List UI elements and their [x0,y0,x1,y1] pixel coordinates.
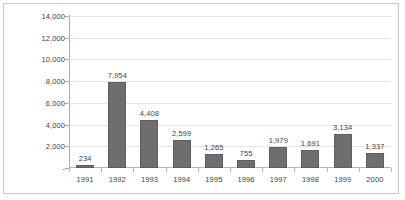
x-axis-labels: 1991199219931994199519961997199819992000 [69,168,391,192]
x-axis-tick-label: 1997 [270,175,287,184]
bar-group: 7,954 [101,16,133,168]
x-axis-tick-label: 2000 [366,175,383,184]
bar-value-label: 3,134 [333,123,352,132]
x-axis-tick [69,168,70,172]
bar [366,153,384,168]
plot-area: 2347,9544,4082,5991,2657551,9791,6913,13… [69,16,391,168]
bar-value-label: 1,265 [204,143,223,152]
bar-value-label: 1,979 [269,136,288,145]
bar-group: 2,599 [166,16,198,168]
bar [301,150,319,168]
y-axis-labels: -2,0004,0006,0008,00010,00012,00014,000 [4,16,65,168]
x-axis-tick [101,168,102,172]
bar-group: 1,979 [262,16,294,168]
bar-group: 1,265 [198,16,230,168]
bar-group: 3,134 [327,16,359,168]
x-axis-tick-label: 1998 [302,175,319,184]
bar [140,120,158,168]
x-axis-tick-label: 1993 [141,175,158,184]
x-axis-tick-label: 1994 [173,175,190,184]
y-axis-tick-label: - [7,164,65,173]
bar [269,147,287,168]
bar-group: 1,337 [359,16,391,168]
bar-value-label: 1,691 [301,139,320,148]
bar [108,82,126,168]
bar [173,140,191,168]
chart-container: -2,0004,0006,0008,00010,00012,00014,000 … [3,3,399,194]
bar-value-label: 755 [240,149,253,158]
bar-value-label: 234 [79,154,92,163]
bar [237,160,255,168]
x-axis-tick [359,168,360,172]
bar-group: 4,408 [133,16,165,168]
x-axis-tick-label: 1991 [77,175,94,184]
x-axis-tick [262,168,263,172]
y-axis-tick-label: 10,000 [7,55,65,64]
bar-group: 1,691 [294,16,326,168]
bar-group: 755 [230,16,262,168]
x-axis-tick [198,168,199,172]
x-axis-tick [294,168,295,172]
x-axis-tick-label: 1995 [205,175,222,184]
bar-group: 234 [69,16,101,168]
x-axis-tick [230,168,231,172]
bar [205,154,223,168]
bar-value-label: 7,954 [108,71,127,80]
bar-value-label: 2,599 [172,129,191,138]
x-axis-tick-label: 1999 [334,175,351,184]
bar-value-label: 4,408 [140,109,159,118]
x-axis-tick [166,168,167,172]
x-axis-tick-label: 1992 [109,175,126,184]
x-axis-tick [391,168,392,172]
y-axis-tick-label: 2,000 [7,142,65,151]
x-axis-tick-label: 1996 [238,175,255,184]
x-axis-tick [327,168,328,172]
y-axis-tick-label: 14,000 [7,12,65,21]
y-axis-tick-label: 6,000 [7,98,65,107]
bar [334,134,352,168]
bar-value-label: 1,337 [365,142,384,151]
y-axis-tick-label: 4,000 [7,120,65,129]
y-axis-tick-label: 12,000 [7,33,65,42]
y-axis-tick-label: 8,000 [7,77,65,86]
x-axis-tick [133,168,134,172]
